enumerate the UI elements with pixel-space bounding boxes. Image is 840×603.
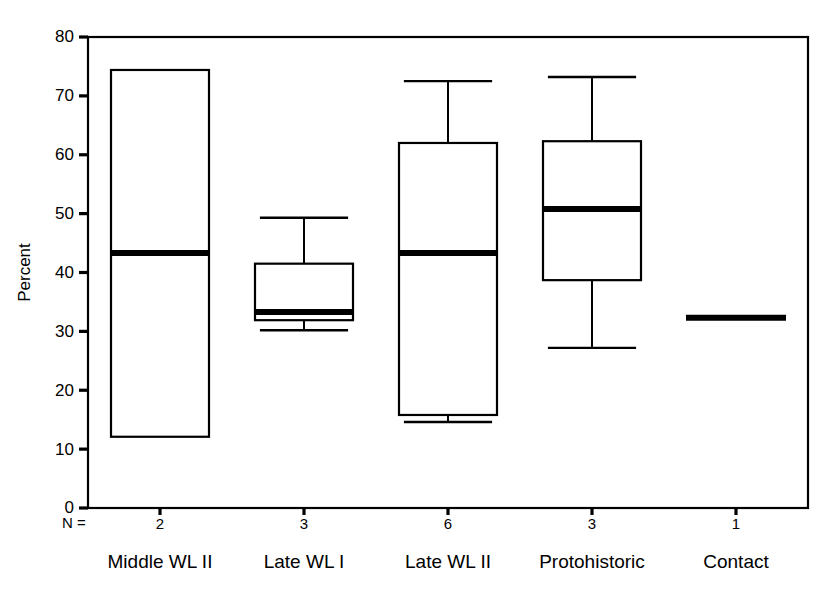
n-value-label: 1	[732, 515, 740, 532]
y-axis-tick-label: 80	[55, 27, 74, 46]
category-label: Contact	[703, 551, 769, 572]
y-axis-tick-label: 40	[55, 263, 74, 282]
n-value-label: 2	[156, 515, 164, 532]
box-body	[399, 143, 497, 415]
category-label: Middle WL II	[108, 551, 213, 572]
y-axis-tick-label: 60	[55, 145, 74, 164]
boxplot-figure: 01020304050607080PercentN =2Middle WL II…	[0, 0, 840, 603]
y-axis-tick-label: 50	[55, 204, 74, 223]
chart-canvas: 01020304050607080PercentN =2Middle WL II…	[0, 0, 840, 603]
n-value-label: 3	[300, 515, 308, 532]
y-axis-tick-label: 30	[55, 322, 74, 341]
n-value-label: 3	[588, 515, 596, 532]
box-group	[398, 81, 498, 422]
n-value-label: 6	[444, 515, 452, 532]
box-group	[110, 70, 210, 437]
y-axis-tick-label: 70	[55, 86, 74, 105]
box-group	[542, 77, 642, 348]
category-label: Protohistoric	[539, 551, 645, 572]
box-group	[254, 218, 354, 330]
category-label: Late WL II	[405, 551, 491, 572]
n-prefix-label: N =	[62, 514, 86, 531]
y-axis-title: Percent	[15, 243, 34, 302]
y-axis-tick-label: 20	[55, 381, 74, 400]
y-axis-tick-label: 10	[55, 440, 74, 459]
category-label: Late WL I	[264, 551, 345, 572]
